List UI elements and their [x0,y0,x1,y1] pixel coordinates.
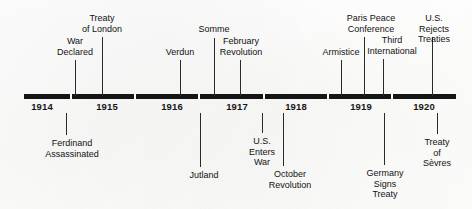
event-leader-line [432,37,433,96]
year-tick-label: 1920 [413,101,435,112]
axis-notch [327,94,329,99]
axis-notch [391,94,393,99]
event-leader-line [384,113,385,165]
event-label-below: Ferdinand Assassinated [45,138,99,159]
event-label-above: Paris Peace Conference [347,13,396,34]
year-tick-label: 1916 [161,101,183,112]
event-leader-line [180,60,181,96]
event-leader-line [383,59,384,96]
event-leader-line [262,113,263,133]
axis-notch [263,94,265,99]
year-tick-label: 1918 [285,101,307,112]
event-label-below: U.S. Enters War [249,136,275,168]
event-label-above: Somme [198,24,229,35]
event-label-below: Treaty of Sèvres [423,137,451,169]
event-label-above: Verdun [166,47,195,58]
event-label-above: Treaty of London [82,13,122,34]
event-leader-line [240,60,241,96]
event-leader-line [364,37,365,96]
axis-notch [134,94,136,99]
event-leader-line [200,113,201,167]
year-tick-label: 1917 [226,101,248,112]
year-tick-label: 1914 [31,101,53,112]
event-leader-line [66,113,67,135]
event-leader-line [75,60,76,96]
event-label-below: Germany Signs Treaty [366,168,403,200]
event-leader-line [214,38,215,96]
event-leader-line [437,113,438,134]
year-tick-label: 1919 [350,101,372,112]
event-leader-line [341,60,342,96]
event-label-above: War Declared [57,36,93,57]
axis-notch [70,94,72,99]
event-label-above: U.S. Rejects Treaties [415,13,453,45]
event-leader-line [283,113,284,166]
year-tick-label: 1915 [96,101,118,112]
event-label-below: Jutland [189,170,218,181]
timeline-figure: 1914191519161917191819191920 War Declare… [0,0,472,209]
event-label-above: Armistice [322,47,359,58]
event-label-below: October Revolution [269,169,312,190]
axis-notch [198,94,200,99]
event-label-above: February Revolution [220,36,263,57]
event-label-above: Third International [367,35,417,56]
event-leader-line [102,37,103,96]
